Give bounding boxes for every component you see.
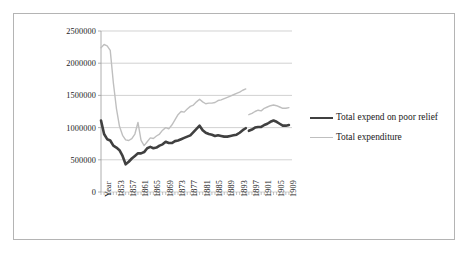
x-tick-label: 1853: [117, 180, 126, 197]
chart-legend: Total expend on poor reliefTotal expendi…: [310, 112, 462, 151]
x-tick-label: 1897: [252, 180, 261, 197]
legend-entry-label: Total expenditure: [336, 132, 402, 143]
y-tick-label: 1000000: [34, 123, 96, 132]
x-tick-label: 1869: [166, 180, 175, 197]
y-tick-label: 500000: [34, 155, 96, 164]
x-tick-label: 1865: [153, 180, 162, 197]
series-line-1: [249, 121, 289, 131]
x-tick-label: 1885: [215, 180, 224, 197]
x-tick-label: 1857: [129, 180, 138, 197]
chart-frame: 05000001000000150000020000002500000 Year…: [13, 13, 455, 240]
x-tick-label: 1901: [264, 180, 273, 197]
y-tick-label: 2500000: [34, 27, 96, 36]
y-tick-label: 1500000: [34, 91, 96, 100]
y-tick-label: 2000000: [34, 59, 96, 68]
x-tick-label: 1877: [190, 180, 199, 197]
x-tick-label: 1893: [240, 180, 249, 197]
x-tick-label: 1881: [203, 180, 212, 197]
legend-entry: Total expend on poor relief: [310, 112, 462, 123]
x-tick-label: 1873: [178, 180, 187, 197]
legend-line-swatch-icon: [310, 117, 333, 119]
legend-entry: Total expenditure: [310, 132, 462, 143]
x-tick-label: 1905: [277, 180, 286, 197]
series-line-3: [249, 105, 289, 115]
y-tick-label: 0: [34, 188, 96, 197]
legend-line-swatch-icon: [310, 137, 333, 138]
x-tick-label: Year: [104, 181, 113, 197]
x-tick-label: 1889: [227, 180, 236, 197]
series-line-0: [101, 121, 246, 165]
figure-canvas: 05000001000000150000020000002500000 Year…: [0, 0, 469, 257]
legend-entry-label: Total expend on poor relief: [336, 112, 438, 123]
x-tick-label: 1861: [141, 180, 150, 197]
x-tick-label: 1909: [289, 180, 298, 197]
